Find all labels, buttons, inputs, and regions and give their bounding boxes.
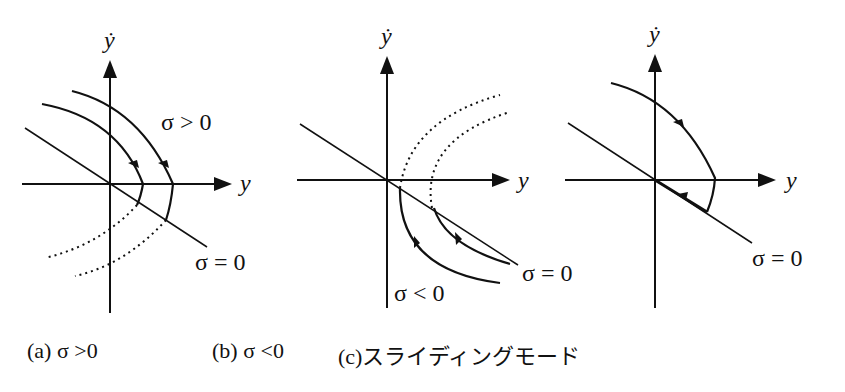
trajectory-outer — [72, 91, 173, 220]
region-label: σ > 0 — [161, 109, 211, 135]
caption-c: (c)スライディングモード — [338, 338, 580, 370]
x-axis-label: y — [784, 167, 797, 193]
x-axis-arrow-icon — [214, 177, 232, 191]
switching-line — [300, 124, 518, 265]
trajectory-dotted-outer — [431, 112, 510, 208]
y-dot-axis-label: ẏ — [379, 23, 392, 49]
direction-arrow-icon — [128, 160, 139, 168]
switching-line — [25, 128, 207, 247]
x-axis-label: y — [516, 167, 529, 193]
y-axis-arrow-icon — [648, 54, 662, 72]
trajectory-dotted-inner — [400, 95, 500, 188]
trajectory — [611, 83, 715, 212]
switching-line-label: σ = 0 — [195, 249, 245, 275]
caption-a: (a) σ >0 — [27, 338, 98, 364]
caption-b: (b) σ <0 — [212, 338, 284, 364]
direction-arrow-icon — [673, 119, 684, 127]
x-axis-label: y — [238, 170, 251, 196]
y-axis-arrow-icon — [380, 56, 394, 74]
y-axis-arrow-icon — [103, 60, 117, 78]
switching-line-label: σ = 0 — [522, 260, 572, 286]
y-dot-axis-label: ẏ — [647, 21, 660, 47]
x-axis-arrow-icon — [758, 173, 776, 187]
trajectory-dotted-outer — [75, 220, 166, 276]
trajectory-dotted-inner — [45, 205, 137, 258]
phase-plane-figure: ẏ y σ > 0 σ = 0 ẏ y σ < 0 σ = 0 ẏ y σ = — [0, 0, 845, 392]
region-label: σ < 0 — [394, 280, 444, 306]
trajectory-inner — [400, 188, 500, 283]
x-axis-arrow-icon — [492, 173, 510, 187]
y-dot-axis-label: ẏ — [102, 27, 115, 53]
switching-line-label: σ = 0 — [752, 245, 802, 271]
panel-a: ẏ y σ > 0 σ = 0 — [22, 27, 251, 313]
panel-b: ẏ y σ < 0 σ = 0 — [297, 23, 572, 308]
panel-c: ẏ y σ = 0 — [565, 21, 802, 308]
